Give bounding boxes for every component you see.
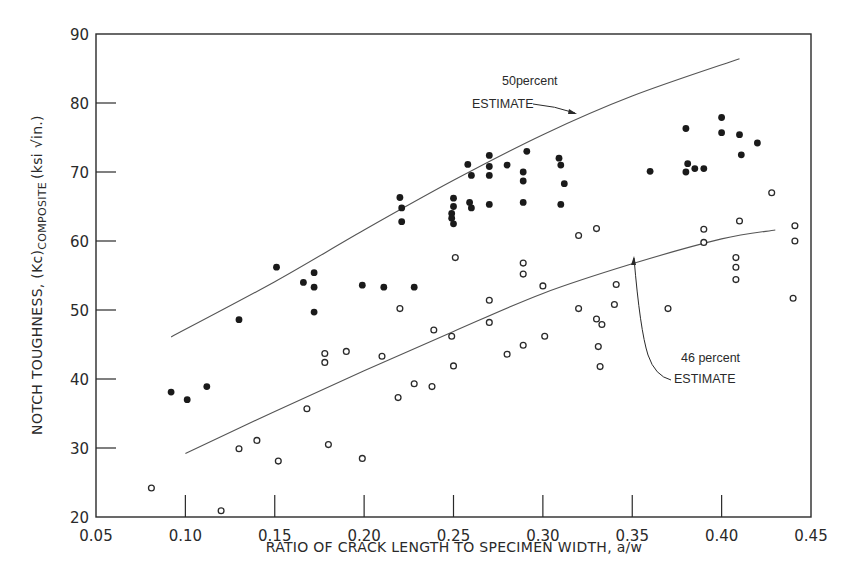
filled-data-point [561,180,568,187]
x-tick-label: 0.45 [794,527,827,545]
filled-data-point [468,205,475,212]
filled-data-point [236,316,243,323]
annotation-50-line1: 50percent [502,74,558,88]
filled-data-point [684,160,691,167]
scatter-plot: 0.050.100.150.200.250.300.350.400.45 203… [0,0,848,585]
filled-data-point [168,389,175,396]
filled-data-point [486,152,493,159]
filled-points-series [168,114,761,403]
open-data-point [451,363,457,369]
y-tick-label: 90 [70,26,89,44]
filled-data-point [184,396,191,403]
arrowhead-icon [631,256,636,265]
curve-46-percent-estimate [185,230,775,454]
open-data-point [411,381,417,387]
open-data-point [576,306,582,312]
filled-data-point [700,165,707,172]
filled-data-point [311,284,318,291]
open-data-point [322,360,328,366]
x-tick-label: 0.10 [169,527,202,545]
open-data-point [275,458,281,464]
open-data-point [395,395,401,401]
open-data-point [520,260,526,266]
open-data-point [254,438,260,444]
y-tick-label: 70 [70,164,89,182]
axis-ticks [96,103,722,517]
y-tick-label: 80 [70,95,89,113]
filled-data-point [504,162,511,169]
filled-data-point [450,195,457,202]
y-tick-label: 30 [70,440,89,458]
open-data-point [322,351,328,357]
open-data-point [504,351,510,357]
x-axis-title: RATIO OF CRACK LENGTH TO SPECIMEN WIDTH,… [266,539,643,555]
open-data-point [326,442,332,448]
open-data-point [701,226,707,232]
open-data-point [792,238,798,244]
arrowhead-icon [568,109,577,114]
open-data-point [594,316,600,322]
open-data-point [236,446,242,452]
estimate-curves [171,59,775,454]
filled-data-point [397,194,404,201]
filled-data-point [468,172,475,179]
filled-data-point [683,125,690,132]
open-data-point [343,349,349,355]
open-data-point [452,255,458,261]
open-data-point [576,233,582,239]
filled-data-point [520,169,527,176]
filled-data-point [523,148,530,155]
filled-data-point [683,169,690,176]
filled-data-point [398,205,405,212]
filled-data-point [718,129,725,136]
open-data-point [486,320,492,326]
filled-data-point [486,172,493,179]
y-tick-label: 40 [70,371,89,389]
filled-data-point [450,203,457,210]
annotation-46-line1: 46 percent [681,351,741,365]
open-data-point [520,342,526,348]
open-data-point [737,218,743,224]
filled-data-point [380,284,387,291]
annotation-46-line2: ESTIMATE [674,372,736,386]
filled-data-point [398,218,405,225]
y-tick-labels: 2030405060708090 [70,26,89,527]
filled-data-point [718,114,725,121]
filled-data-point [520,199,527,206]
annotation-46-arrow [634,258,671,380]
annotation-50-percent: 50percent ESTIMATE [472,74,577,114]
chart: 0.050.100.150.200.250.300.350.400.45 203… [0,0,848,585]
open-data-point [431,327,437,333]
filled-data-point [203,383,210,390]
filled-data-point [486,201,493,208]
filled-data-point [464,161,471,168]
open-data-point [542,333,548,339]
open-data-point [540,283,546,289]
open-data-point [218,508,224,514]
filled-data-point [691,165,698,172]
filled-data-point [736,131,743,138]
open-data-point [792,223,798,229]
annotation-50-line2: ESTIMATE [472,97,534,111]
x-tick-label: 0.40 [705,527,738,545]
x-tick-label: 0.05 [79,527,112,545]
y-tick-label: 50 [70,302,89,320]
y-tick-label: 20 [70,509,89,527]
filled-data-point [450,220,457,227]
open-data-point [486,297,492,303]
filled-data-point [273,264,280,271]
filled-data-point [557,201,564,208]
open-data-point [790,295,796,301]
open-data-point [612,302,618,308]
filled-data-point [520,178,527,185]
open-data-point [520,271,526,277]
open-data-point [599,322,605,328]
filled-data-point [557,162,564,169]
filled-data-point [359,282,366,289]
open-data-point [594,226,600,232]
filled-data-point [311,309,318,316]
open-data-point [149,485,155,491]
open-data-point [769,190,775,196]
y-axis-title: NOTCH TOUGHNESS, (Kc)COMPOSITE(ksi √in.) [29,115,49,435]
filled-data-point [647,168,654,175]
